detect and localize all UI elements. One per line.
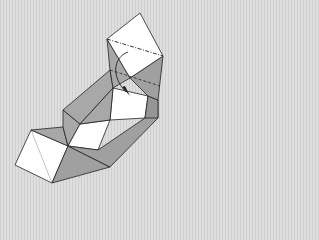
origami-diagram [0,0,181,193]
box-inner-floor-2 [110,88,148,120]
